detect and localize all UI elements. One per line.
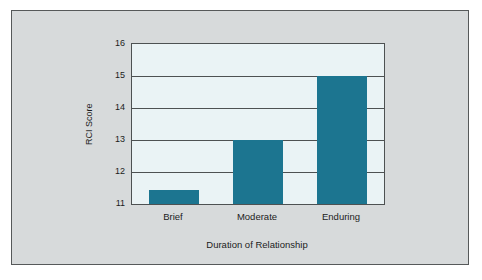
y-tick-label: 16 xyxy=(95,38,125,48)
bar-brief xyxy=(149,190,199,204)
x-tick-label: Brief xyxy=(133,211,213,222)
x-tick-label: Moderate xyxy=(217,211,297,222)
y-axis-title: RCI Score xyxy=(84,89,98,159)
plot-area xyxy=(131,43,385,205)
y-tick-label: 13 xyxy=(95,134,125,144)
y-tick-label: 11 xyxy=(95,198,125,208)
y-tick-label: 14 xyxy=(95,102,125,112)
y-tick-label: 12 xyxy=(95,166,125,176)
figure-root: RCI Score 111213141516 BriefModerateEndu… xyxy=(0,0,482,280)
bar-enduring xyxy=(317,76,367,204)
bar-moderate xyxy=(233,140,283,204)
x-axis-title: Duration of Relationship xyxy=(131,239,383,250)
y-tick-label: 15 xyxy=(95,70,125,80)
chart-panel: RCI Score 111213141516 BriefModerateEndu… xyxy=(11,10,469,265)
x-tick-label: Enduring xyxy=(301,211,381,222)
